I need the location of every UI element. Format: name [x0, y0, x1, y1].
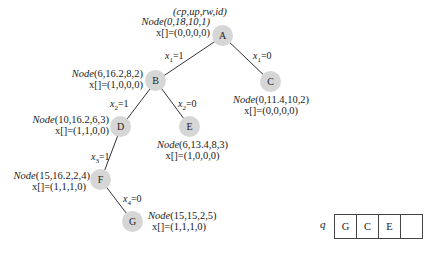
node-f: F [90, 169, 111, 190]
edge-val: =0 [131, 193, 142, 204]
edge-val: =0 [261, 50, 272, 61]
edge-label-f-g: x4=0 [123, 193, 142, 207]
node-a: A [212, 25, 233, 46]
node-a-params: Node(0,18,10,1) [100, 16, 210, 27]
edge-label-d-f: x3=1 [91, 151, 110, 165]
node-g-x: x[]=(1,1,1,0) [152, 221, 206, 232]
node-e: E [179, 116, 200, 137]
edge-val: =0 [186, 98, 197, 109]
node-c-node: Node(0,11.4,10,2) [221, 94, 321, 105]
node-f-node: Node(15,16.2,2,4) [0, 170, 90, 181]
search-tree-diagram: (cp,up,rw,id) A Node(0,18,10,1) x[]=(0,0… [0, 0, 436, 253]
edge-val: =1 [118, 98, 129, 109]
queue-cell [401, 215, 422, 238]
node-b-node: Node(6,16.2,8,2) [30, 68, 143, 79]
edge-label-b-e: x2=0 [178, 98, 197, 112]
node-b-x: x[]=(1,0,0,0) [30, 79, 143, 90]
node-a-node: Node(0,18,10,1) [141, 16, 210, 27]
node-g-node: Node(15,15,2,5) [148, 210, 217, 221]
node-d: D [110, 116, 131, 137]
node-d-x: x[]=(1,1,0,0) [0, 125, 109, 136]
node-b: B [145, 70, 166, 91]
node-e-node: Node(6,13.4,8,3) [145, 139, 240, 150]
edge-val: =1 [173, 50, 184, 61]
node-a-x: x[]=(0,0,0,0) [100, 27, 210, 38]
queue: G C E [334, 214, 423, 239]
node-e-x: x[]=(1,0,0,0) [145, 150, 240, 161]
node-c-x: x[]=(0,0,0,0) [221, 105, 321, 116]
edge-label-a-c: x1=0 [253, 50, 272, 64]
node-f-x: x[]=(1,1,1,0) [0, 181, 86, 192]
edge-val: =1 [99, 151, 110, 162]
node-c: C [260, 71, 281, 92]
edge-label-a-b: x1=1 [165, 50, 184, 64]
queue-cell: E [379, 215, 401, 238]
edge-label-b-d: x2=1 [110, 98, 129, 112]
node-d-node: Node(10,16.2,6,3) [0, 114, 109, 125]
queue-cell: C [357, 215, 379, 238]
queue-cell: G [335, 215, 357, 238]
node-g: G [122, 211, 143, 232]
queue-label: q [320, 218, 326, 230]
